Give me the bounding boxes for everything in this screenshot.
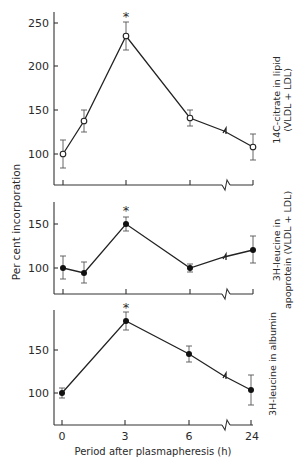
- data-point: [187, 115, 193, 121]
- data-point: [250, 247, 256, 253]
- panel-citrate: 250 200 150 100: [28, 9, 293, 190]
- svg-text:200: 200: [28, 60, 49, 73]
- data-point: [60, 265, 66, 271]
- data-point: [81, 118, 87, 124]
- svg-text:100: 100: [28, 387, 49, 400]
- svg-text:100: 100: [28, 148, 49, 161]
- data-point: [186, 351, 192, 357]
- panel1-axis-break-icon: [222, 180, 230, 190]
- panel1-series-line: [63, 36, 253, 154]
- svg-text:(VLDL + LDL): (VLDL + LDL): [282, 68, 293, 132]
- panel2-x-ticks: [63, 289, 253, 294]
- panel1-error-bars: [60, 22, 256, 168]
- data-point: [123, 221, 129, 227]
- svg-text:150: 150: [28, 218, 49, 231]
- svg-text:150: 150: [28, 104, 49, 117]
- svg-text:250: 250: [28, 17, 49, 30]
- panel3-series-label: 3H-leucine in albumin: [267, 312, 278, 416]
- panel2-axis-break-icon: [222, 289, 230, 299]
- data-point: [123, 33, 129, 39]
- panel3-x-ticks: [62, 420, 251, 425]
- panel2-series-label: 3H-leucine in apoprotein (VLDL + LDL): [271, 191, 293, 309]
- data-point: [248, 387, 254, 393]
- panel-apoprotein: 150 100 * 3H-leucine in apopro: [28, 191, 293, 309]
- panel2-error-bars: [60, 217, 256, 283]
- panel3-data-points: [59, 318, 254, 396]
- panel2-data-points: [60, 221, 256, 276]
- y-axis-label: Per cent incorporation: [10, 164, 22, 280]
- data-point: [187, 265, 193, 271]
- svg-text:100: 100: [28, 262, 49, 275]
- svg-text:3H-leucine in: 3H-leucine in: [271, 219, 282, 282]
- data-point: [81, 270, 87, 276]
- svg-text:apoprotein (VLDL + LDL): apoprotein (VLDL + LDL): [282, 191, 293, 309]
- data-point: [123, 318, 129, 324]
- figure: Per cent incorporation 250 200 150 100: [0, 0, 300, 459]
- significance-marker: *: [123, 300, 130, 315]
- svg-text:150: 150: [28, 344, 49, 357]
- svg-text:3H-leucine in albumin: 3H-leucine in albumin: [267, 312, 278, 416]
- panel2-series-line: [63, 224, 253, 273]
- panel1-line-break-icon: [223, 128, 226, 134]
- x-tick-labels: 0 3 6 24: [59, 430, 260, 443]
- significance-marker: *: [123, 9, 130, 24]
- panel1-series-label: 14C-citrate in lipid (VLDL + LDL): [271, 56, 293, 144]
- panel3-series-line: [62, 321, 251, 393]
- panel3-error-bars: [59, 312, 254, 405]
- data-point: [60, 151, 66, 157]
- panel2-line-break-icon: [223, 254, 226, 260]
- svg-text:0: 0: [59, 430, 66, 443]
- svg-text:3: 3: [122, 430, 129, 443]
- data-point: [59, 390, 65, 396]
- panel3-line-break-icon: [223, 373, 226, 379]
- panel3-axis-break-icon: [222, 420, 230, 430]
- panel1-x-ticks: [63, 180, 253, 185]
- panel1-data-points: [60, 33, 256, 157]
- x-axis-label: Period after plasmapheresis (h): [75, 446, 232, 457]
- panel-albumin: 150 100 * 3H-leucine in albumin: [28, 300, 278, 457]
- data-point: [250, 144, 256, 150]
- svg-text:6: 6: [186, 430, 193, 443]
- svg-text:14C-citrate in lipid: 14C-citrate in lipid: [271, 56, 282, 144]
- svg-text:24: 24: [245, 430, 259, 443]
- significance-marker: *: [123, 203, 130, 218]
